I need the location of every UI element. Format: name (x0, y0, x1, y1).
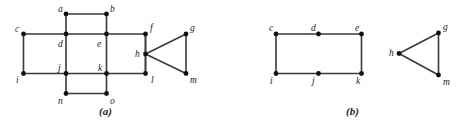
vertex-label-m: m (190, 76, 197, 86)
vertex-label-e: e (355, 24, 359, 34)
vertex-label-j: j (312, 77, 315, 87)
graph-vertex (316, 32, 321, 37)
graph-vertex (274, 32, 279, 37)
vertex-label-g: g (190, 24, 195, 34)
vertex-label-l: l (151, 76, 154, 86)
vertex-label-n: n (58, 97, 63, 107)
vertex-label-j: j (58, 64, 61, 74)
panel-caption-panel-a: (a) (99, 106, 112, 117)
graph-edge (399, 54, 439, 76)
vertex-label-a: a (58, 5, 63, 15)
graph-canvas (0, 0, 465, 126)
vertex-label-d: d (311, 24, 316, 34)
graph-vertex (64, 12, 69, 17)
vertex-label-i: i (16, 76, 19, 86)
graph-vertex (184, 32, 189, 37)
vertex-label-h: h (389, 49, 394, 59)
vertex-label-k: k (98, 64, 102, 74)
graph-vertex (104, 91, 109, 96)
vertex-label-c: c (269, 24, 273, 34)
graph-vertex (21, 32, 26, 37)
vertex-label-c: c (15, 25, 19, 35)
vertex-label-d: d (58, 40, 63, 50)
vertex-label-g: g (443, 23, 448, 33)
vertices-layer (21, 12, 441, 96)
graph-vertex (143, 71, 148, 76)
graph-edge (146, 54, 187, 74)
graph-vertex (64, 71, 69, 76)
graph-vertex (143, 32, 148, 37)
graph-vertex (64, 91, 69, 96)
vertex-label-i: i (270, 77, 273, 87)
graph-vertex (64, 32, 69, 37)
graph-figure: abcdefghijklmno(a)cdeghijkm(b) (0, 0, 465, 126)
graph-vertex (21, 71, 26, 76)
graph-vertex (143, 52, 148, 57)
graph-vertex (184, 71, 189, 76)
graph-vertex (104, 12, 109, 17)
vertex-label-f: f (150, 24, 153, 34)
graph-vertex (359, 32, 364, 37)
vertex-label-m: m (443, 78, 450, 88)
graph-vertex (436, 73, 441, 78)
graph-vertex (274, 71, 279, 76)
vertex-label-e: e (97, 40, 101, 50)
edges-layer (24, 14, 439, 94)
vertex-label-k: k (356, 77, 360, 87)
graph-edge (399, 33, 439, 54)
vertex-label-h: h (135, 50, 140, 60)
graph-edge (146, 34, 187, 54)
graph-vertex (316, 71, 321, 76)
panel-caption-panel-b: (b) (346, 106, 359, 117)
graph-vertex (104, 71, 109, 76)
graph-vertex (104, 32, 109, 37)
vertex-label-b: b (110, 5, 115, 15)
graph-vertex (436, 31, 441, 36)
graph-vertex (397, 51, 402, 56)
